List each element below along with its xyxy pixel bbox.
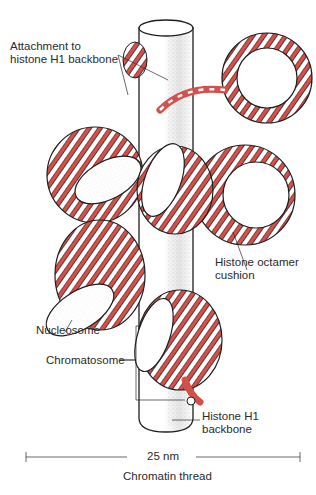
nucleosome-top-right <box>222 33 312 123</box>
label-chromatosome: Chromatosome <box>46 354 125 367</box>
label-scale: 25 nm <box>147 450 179 463</box>
chromatin-diagram <box>0 0 316 495</box>
nucleosome-upper-left <box>47 127 149 223</box>
label-chromatin-thread: Chromatin thread <box>123 470 212 483</box>
nucleosome-top-back <box>123 42 147 78</box>
label-histone-octamer: Histone octamer cushion <box>215 256 299 282</box>
label-histone-h1: Histone H1 backbone <box>202 410 259 436</box>
label-nucleosome: Nucleosome <box>36 324 100 337</box>
label-attachment: Attachment to histone H1 backbone <box>10 40 118 66</box>
